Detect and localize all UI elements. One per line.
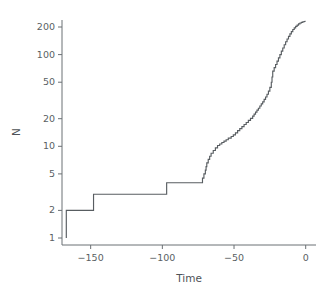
y-tick-label: 5 xyxy=(49,168,55,179)
y-tick-label: 200 xyxy=(37,21,55,32)
y-tick-label: 1 xyxy=(49,232,55,243)
y-tick-label: 50 xyxy=(43,76,55,87)
chart-container: 125102050100200 −150−100−500 Time N xyxy=(0,0,327,294)
y-tick-label: 2 xyxy=(49,204,55,215)
x-tick-label: −150 xyxy=(78,252,104,263)
x-tick-label: −50 xyxy=(224,252,244,263)
y-axis-ticks: 125102050100200 xyxy=(37,21,62,243)
x-axis-ticks: −150−100−500 xyxy=(78,245,309,263)
y-axis-title: N xyxy=(10,128,22,136)
x-axis-title: Time xyxy=(175,272,202,284)
y-tick-label: 100 xyxy=(37,49,55,60)
step-chart: 125102050100200 −150−100−500 Time N xyxy=(0,0,327,294)
x-tick-label: 0 xyxy=(303,252,309,263)
cumulative-count-line xyxy=(66,21,305,238)
x-tick-label: −100 xyxy=(149,252,175,263)
y-tick-label: 10 xyxy=(43,140,55,151)
y-tick-label: 20 xyxy=(43,113,55,124)
